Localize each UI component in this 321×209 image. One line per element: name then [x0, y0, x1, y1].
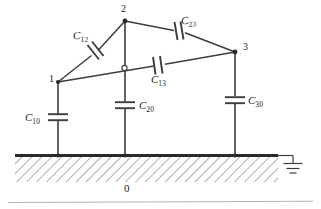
node-dot-ground-2	[123, 153, 127, 157]
node-label-3: 3	[243, 42, 248, 52]
node-dot-ground-3	[233, 153, 237, 157]
capacitor-label-c30-sub: 30	[255, 100, 263, 109]
capacitor-label-c23: C23	[181, 15, 197, 27]
node-label-1: 1	[49, 74, 54, 84]
capacitor-label-c13: C13	[151, 74, 166, 85]
wire-crossing-marker	[122, 65, 127, 70]
branch-c23	[125, 21, 235, 52]
capacitor-label-c20-sub: 20	[146, 105, 154, 114]
ground-node-label-0: 0	[124, 183, 130, 194]
node-dot-ground-1	[56, 153, 60, 157]
node-dot-3	[233, 50, 238, 55]
branch-c13	[58, 52, 235, 82]
capacitor-label-c10: C10	[25, 112, 40, 123]
capacitor-label-c20: C20	[139, 100, 154, 111]
branch-c20	[115, 21, 135, 155]
capacitor-label-c13-sub: 13	[158, 79, 166, 88]
node-label-2: 2	[121, 4, 126, 14]
branch-c30	[225, 52, 245, 155]
capacitor-label-c12-sub: 12	[80, 34, 88, 43]
capacitor-label-c30: C30	[248, 95, 263, 106]
branch-c10	[48, 82, 68, 155]
node-dot-2	[123, 19, 128, 24]
capacitance-network-figure: 1 2 3 0 C12 C23 C13 C10 C20 C30	[0, 0, 321, 209]
bottom-rule	[8, 201, 313, 202]
capacitor-label-c10-sub: 10	[32, 117, 40, 126]
capacitor-label-c23-sub: 23	[188, 19, 196, 28]
capacitor-label-c12: C12	[73, 30, 88, 41]
ground-hatch-region	[15, 157, 278, 182]
node-dot-1	[56, 80, 60, 84]
circuit-diagram-svg	[0, 0, 321, 209]
earth-ground-symbol	[278, 156, 303, 174]
